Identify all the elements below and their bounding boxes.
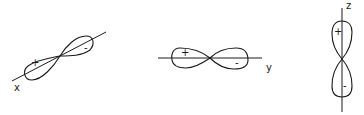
py-minus-sign: - bbox=[235, 57, 239, 68]
px-minus-sign: - bbox=[84, 42, 88, 53]
y-axis-label: y bbox=[266, 62, 272, 73]
pz-plus-sign: + bbox=[334, 26, 342, 37]
pz-minus-sign: - bbox=[343, 80, 347, 91]
px-plus-sign: + bbox=[31, 57, 39, 68]
py-plus-sign: + bbox=[181, 47, 189, 58]
x-axis-label: x bbox=[14, 82, 20, 93]
px-positive-lobe bbox=[25, 56, 60, 80]
z-axis-label: z bbox=[346, 0, 351, 11]
py-orbital: + - y bbox=[158, 47, 272, 73]
px-orbital: + - x bbox=[12, 32, 106, 93]
pz-orbital: + - z bbox=[332, 0, 352, 112]
p-orbitals-diagram: + - x + - y + - z bbox=[0, 0, 364, 115]
